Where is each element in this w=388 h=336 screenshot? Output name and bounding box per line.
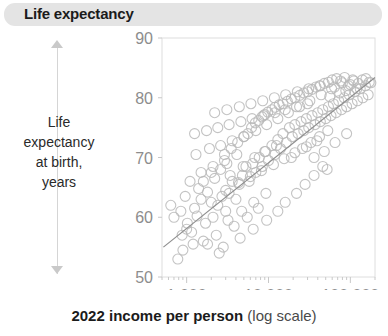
y-axis-label-line-2: expectancy [0,132,118,152]
y-axis-label-line-1: Life [0,112,118,132]
scatter-point [279,154,289,164]
scatter-point [258,96,268,106]
scatter-point [210,108,220,118]
scatter-point [319,147,329,157]
scatter-point [323,126,333,136]
scatter-point [213,123,223,133]
scatter-points [166,72,376,264]
scatter-point [185,176,195,186]
scatter-point [342,129,352,139]
scatter-point [280,197,290,207]
scatter-point [236,117,246,127]
scatter-point [166,200,176,210]
scatter-point [269,93,279,103]
y-tick-label: 50 [135,269,153,286]
scatter-point [178,245,188,255]
scatter-point [292,188,302,198]
scatter-point [176,206,186,216]
scatter-point [229,221,239,231]
scatter-point [235,233,245,243]
scatter-point [292,87,302,97]
y-axis-annotation: Life expectancy at birth, years [0,36,118,281]
x-tick-label: 100,000 [321,287,379,290]
scatter-point [222,158,232,168]
plot-canvas: 50607080901,00010,000100,000 [118,28,380,290]
scatter-point [222,105,232,115]
scatter-point [248,224,258,234]
scatter-point [237,206,247,216]
scatter-point [242,212,252,222]
y-axis-label-line-4: years [0,172,118,192]
scatter-point [225,170,235,180]
scatter-point [223,215,233,225]
y-axis-label: Life expectancy at birth, years [0,112,118,192]
x-axis-title-bold: 2022 income per person [71,307,243,324]
y-tick-label: 80 [135,90,153,107]
scatter-point [211,230,221,240]
scatter-point [309,153,319,163]
scatter-point [173,254,183,264]
scatter-point [224,120,234,130]
scatter-point [260,147,270,157]
scatter-point [233,138,243,148]
scatter-point [246,99,256,109]
scatter-point [188,239,198,249]
x-axis-title-light: (log scale) [247,307,316,324]
scatter-point [190,129,200,139]
x-tick-label: 10,000 [244,287,293,290]
scatter-point [305,96,315,106]
scatter-point [231,194,241,204]
x-tick-label: 1,000 [167,287,207,290]
y-tick-label: 70 [135,150,153,167]
scatter-point [169,212,179,222]
scatter-point [261,188,271,198]
scatter-point [330,138,340,148]
scatter-point [210,173,220,183]
scatter-point [262,215,272,225]
scatter-plot: 50607080901,00010,000100,000 [118,28,380,290]
scatter-point [309,170,319,180]
scatter-point [234,102,244,112]
plot-frame [162,38,375,277]
scatter-point [216,141,226,151]
scatter-point [194,184,204,194]
chart-page: Life expectancy Life expectancy at birth… [0,0,388,336]
trend-line [163,77,375,247]
scatter-point [300,179,310,189]
scatter-point [227,136,237,146]
scatter-point [287,132,297,142]
x-axis-title: 2022 income per person (log scale) [0,307,388,324]
scatter-point [196,167,206,177]
y-tick-label: 60 [135,209,153,226]
scatter-point [208,212,218,222]
scatter-point [219,155,229,165]
page-title: Life expectancy [24,5,134,22]
scatter-point [221,206,231,216]
scatter-point [206,167,216,177]
scatter-point [273,206,283,216]
arrow-up-icon [51,40,63,48]
scatter-point [180,191,190,201]
scatter-point [198,176,208,186]
scatter-point [232,150,242,160]
scatter-point [293,129,303,139]
y-axis-label-line-3: at birth, [0,152,118,172]
y-tick-label: 90 [135,30,153,47]
scatter-point [273,114,283,124]
scatter-point [202,126,212,136]
scatter-point [250,153,260,163]
scatter-point [191,150,201,160]
scatter-point [204,144,214,154]
arrow-down-icon [51,266,63,274]
